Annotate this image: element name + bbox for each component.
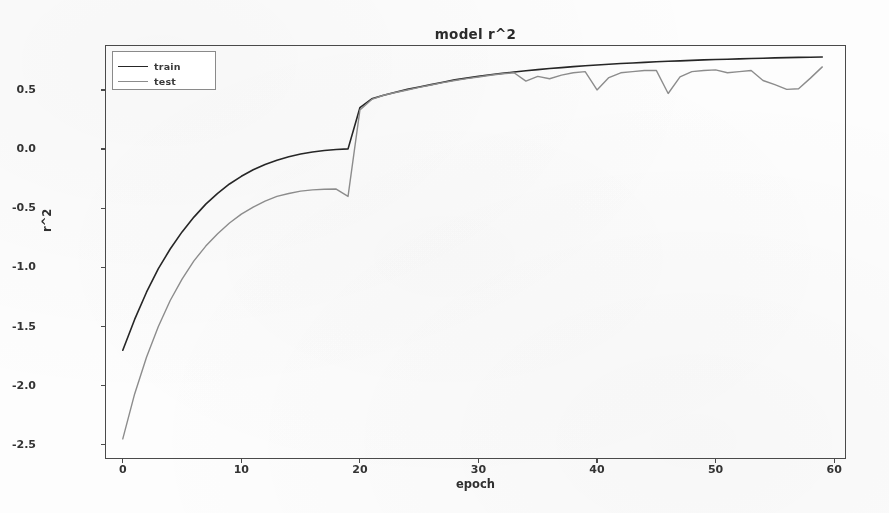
- legend-label: train: [154, 61, 181, 72]
- y-tick-label: 0.0: [17, 142, 37, 155]
- y-tick-label: -2.0: [12, 379, 36, 392]
- y-tick-label: -1.5: [12, 320, 36, 333]
- x-tick-label: 50: [708, 463, 723, 476]
- legend-swatch-test: [118, 81, 148, 82]
- y-tick-label: 0.5: [17, 83, 37, 96]
- x-tick-mark: [715, 459, 716, 463]
- x-tick-label: 20: [352, 463, 367, 476]
- legend-label: test: [154, 76, 176, 87]
- legend: traintest: [112, 51, 216, 90]
- y-tick-label: -0.5: [12, 201, 36, 214]
- legend-item-train: train: [118, 59, 181, 73]
- x-tick-mark: [478, 459, 479, 463]
- y-tick-label: -1.0: [12, 260, 36, 273]
- legend-item-test: test: [118, 74, 176, 88]
- figure-canvas: model r^2 r^2 epoch 0.50.0-0.5-1.0-1.5-2…: [0, 0, 889, 513]
- x-tick-label: 10: [234, 463, 249, 476]
- x-axis-label: epoch: [105, 477, 846, 491]
- legend-swatch-train: [118, 66, 148, 67]
- x-tick-label: 40: [589, 463, 604, 476]
- x-tick-mark: [834, 459, 835, 463]
- series-line-test: [123, 67, 823, 439]
- x-tick-label: 0: [119, 463, 127, 476]
- x-tick-label: 30: [471, 463, 486, 476]
- x-tick-label: 60: [826, 463, 841, 476]
- series-lines: [105, 45, 846, 459]
- x-tick-mark: [359, 459, 360, 463]
- chart-title: model r^2: [105, 26, 846, 42]
- y-axis-label: r^2: [40, 209, 54, 232]
- series-line-train: [123, 57, 823, 350]
- y-tick-label: -2.5: [12, 438, 36, 451]
- plot-area: traintest: [105, 45, 846, 459]
- x-tick-mark: [122, 459, 123, 463]
- x-tick-mark: [241, 459, 242, 463]
- x-tick-mark: [596, 459, 597, 463]
